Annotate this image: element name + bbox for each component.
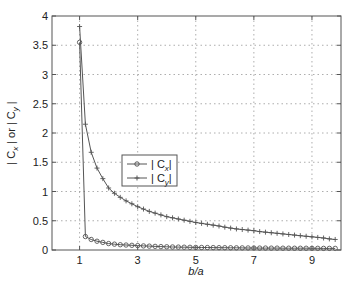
- y-axis-label: | Cx | or | Cy |: [5, 101, 20, 164]
- y-tick-label: 0: [42, 244, 48, 256]
- chart: 1357900.511.522.533.54 b/a | Cx | or | C…: [0, 0, 352, 285]
- x-tick-label: 9: [309, 254, 315, 266]
- y-tick-label: 4: [42, 10, 48, 22]
- x-axis-label: b/a: [188, 265, 203, 277]
- y-tick-label: 2.5: [33, 98, 48, 110]
- y-tick-label: 3: [42, 69, 48, 81]
- x-tick-label: 7: [251, 254, 257, 266]
- grid-lines: [52, 16, 341, 250]
- x-tick-label: 3: [135, 254, 141, 266]
- svg-text:| Cx | or | Cy |: | Cx | or | Cy |: [5, 101, 20, 164]
- y-tick-label: 0.5: [33, 215, 48, 227]
- y-tick-label: 3.5: [33, 39, 48, 51]
- y-tick-label: 2: [42, 127, 48, 139]
- series-cx: [77, 40, 337, 250]
- legend: | Cx| | Cy|: [122, 155, 177, 187]
- y-tick-label: 1.5: [33, 156, 48, 168]
- axis-ticks: 1357900.511.522.533.54: [33, 10, 341, 266]
- y-tick-label: 1: [42, 186, 48, 198]
- x-tick-label: 1: [77, 254, 83, 266]
- data-series: [77, 24, 338, 251]
